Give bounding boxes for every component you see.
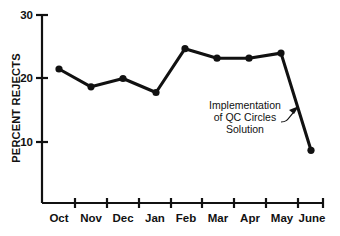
annotation-line-1: Implementation bbox=[209, 99, 281, 111]
x-label-feb: Feb bbox=[176, 212, 196, 224]
chart-container: 30 20 10 PERCENT REJECTS Oct Nov Dec Jan… bbox=[0, 0, 340, 236]
x-label-may: May bbox=[271, 212, 294, 224]
data-point-may bbox=[277, 50, 284, 57]
x-label-nov: Nov bbox=[80, 212, 102, 224]
data-point-apr bbox=[245, 55, 252, 62]
data-point-feb bbox=[181, 45, 188, 52]
data-point-oct bbox=[55, 65, 62, 72]
data-point-june bbox=[307, 147, 314, 154]
x-label-mar: Mar bbox=[208, 212, 229, 224]
x-label-jan: Jan bbox=[145, 212, 165, 224]
y-tick-label-30: 30 bbox=[20, 9, 33, 21]
data-point-mar bbox=[213, 55, 220, 62]
line-chart: 30 20 10 PERCENT REJECTS Oct Nov Dec Jan… bbox=[0, 0, 340, 236]
x-label-apr: Apr bbox=[240, 212, 260, 224]
x-label-dec: Dec bbox=[112, 212, 134, 224]
annotation-line-2: of QC Circles bbox=[214, 111, 276, 123]
y-axis-title: PERCENT REJECTS bbox=[10, 53, 22, 162]
x-label-june: June bbox=[299, 212, 326, 224]
data-point-nov bbox=[87, 83, 94, 90]
annotation-line-3: Solution bbox=[226, 123, 264, 135]
data-point-dec bbox=[119, 75, 126, 82]
data-point-jan bbox=[152, 89, 159, 96]
x-label-oct: Oct bbox=[49, 212, 68, 224]
qc-circles-annotation: Implementation of QC Circles Solution bbox=[209, 99, 299, 135]
y-tick-label-10: 10 bbox=[20, 136, 33, 148]
y-tick-label-20: 20 bbox=[20, 72, 33, 84]
annotation-leader-line bbox=[281, 112, 294, 122]
